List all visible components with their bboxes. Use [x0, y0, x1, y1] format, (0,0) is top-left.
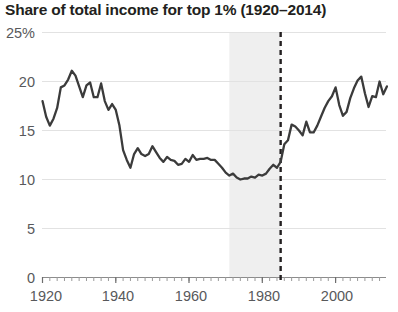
chart-plot-area: 25% 20 15 10 5 0 1920 1940 1960 1980 200…	[0, 0, 398, 312]
y-tick-label-25: 25%	[6, 25, 35, 41]
x-tick-label-1980: 1980	[248, 288, 280, 304]
income-share-line	[43, 71, 387, 180]
x-tick-label-1920: 1920	[30, 288, 62, 304]
chart-figure: Share of total income for top 1% (1920–2…	[0, 0, 398, 312]
shaded-band-region	[229, 33, 280, 277]
y-tick-label-10: 10	[19, 172, 35, 188]
gridlines	[42, 33, 386, 229]
x-tick-label-1940: 1940	[102, 288, 134, 304]
y-tick-label-5: 5	[27, 221, 35, 237]
y-tick-label-15: 15	[19, 123, 35, 139]
y-tick-label-20: 20	[19, 74, 35, 90]
x-tick-label-2000: 2000	[321, 288, 353, 304]
y-tick-label-0: 0	[27, 270, 35, 286]
x-tick-label-1960: 1960	[175, 288, 207, 304]
